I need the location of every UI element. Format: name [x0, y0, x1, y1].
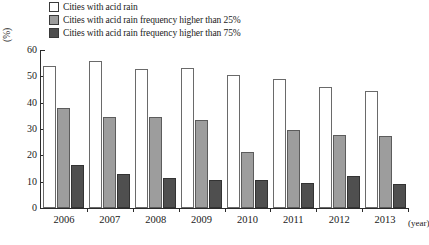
y-axis-tick-label: 40 [27, 98, 37, 108]
dark-gray-swatch [49, 28, 59, 38]
bar-group: 2013 [362, 50, 408, 208]
x-axis-tick-label: 2011 [283, 214, 304, 225]
bar [71, 165, 84, 208]
bar [163, 178, 176, 208]
bar [149, 117, 162, 208]
bar [241, 152, 254, 208]
y-axis-unit-label: (%) [2, 28, 12, 42]
bar-group: 2006 [41, 50, 87, 208]
y-axis-tick-label: 30 [27, 124, 37, 134]
white-swatch [49, 2, 59, 12]
x-axis-tick-label: 2013 [375, 214, 396, 225]
bar [117, 174, 130, 208]
x-axis-tick-mark [179, 208, 180, 212]
bar [255, 180, 268, 208]
bar [135, 69, 148, 208]
bar [103, 117, 116, 208]
x-axis-tick-mark [408, 208, 409, 212]
y-axis-tick-label: 0 [32, 203, 37, 213]
x-axis-tick-label: 2007 [99, 214, 120, 225]
bar-group: 2011 [270, 50, 316, 208]
x-axis-tick-label: 2010 [237, 214, 258, 225]
legend-item: Cities with acid rain frequency higher t… [49, 14, 299, 26]
y-axis-tick-label: 60 [27, 45, 37, 55]
bar-group: 2012 [316, 50, 362, 208]
bar [57, 108, 70, 208]
bar [227, 75, 240, 208]
x-axis-tick-mark [133, 208, 134, 212]
bar [287, 130, 300, 208]
bar [319, 87, 332, 208]
mid-gray-swatch [49, 15, 59, 25]
bar [393, 184, 406, 208]
legend-item-label: Cities with acid rain [63, 2, 138, 12]
bar-group: 2007 [87, 50, 133, 208]
y-axis-tick-label: 50 [27, 71, 37, 81]
bar [43, 66, 56, 208]
x-axis-tick-mark [316, 208, 317, 212]
x-axis-tick-label: 2012 [329, 214, 350, 225]
bar-group: 2008 [133, 50, 179, 208]
bar [89, 61, 102, 208]
bar-group: 2009 [179, 50, 225, 208]
bar [301, 183, 314, 208]
x-axis-tick-label: 2008 [145, 214, 166, 225]
bar [379, 136, 392, 208]
x-axis-tick-mark [270, 208, 271, 212]
bar-group: 2010 [225, 50, 271, 208]
x-axis-tick-label: 2006 [53, 214, 74, 225]
x-axis-tick-mark [225, 208, 226, 212]
y-axis-tick-mark [41, 208, 45, 209]
bar [347, 176, 360, 208]
legend-item-label: Cities with acid rain frequency higher t… [63, 15, 241, 25]
legend-item-label: Cities with acid rain frequency higher t… [63, 28, 241, 38]
y-axis-tick-label: 20 [27, 150, 37, 160]
x-axis-unit-label: (year) [408, 218, 429, 228]
y-axis-tick-label: 10 [27, 177, 37, 187]
plot-area: 0102030405060 20062007200820092010201120… [40, 50, 408, 209]
bar [333, 135, 346, 208]
x-axis-tick-mark [362, 208, 363, 212]
bar-groups: 20062007200820092010201120122013 [41, 50, 408, 208]
legend: Cities with acid rainCities with acid ra… [49, 1, 299, 40]
bar [365, 91, 378, 208]
legend-item: Cities with acid rain frequency higher t… [49, 27, 299, 39]
legend-item: Cities with acid rain [49, 1, 299, 13]
bar [209, 180, 222, 208]
x-axis-tick-label: 2009 [191, 214, 212, 225]
x-axis-tick-mark [87, 208, 88, 212]
bar [195, 120, 208, 208]
bar [273, 79, 286, 208]
bar [181, 68, 194, 208]
